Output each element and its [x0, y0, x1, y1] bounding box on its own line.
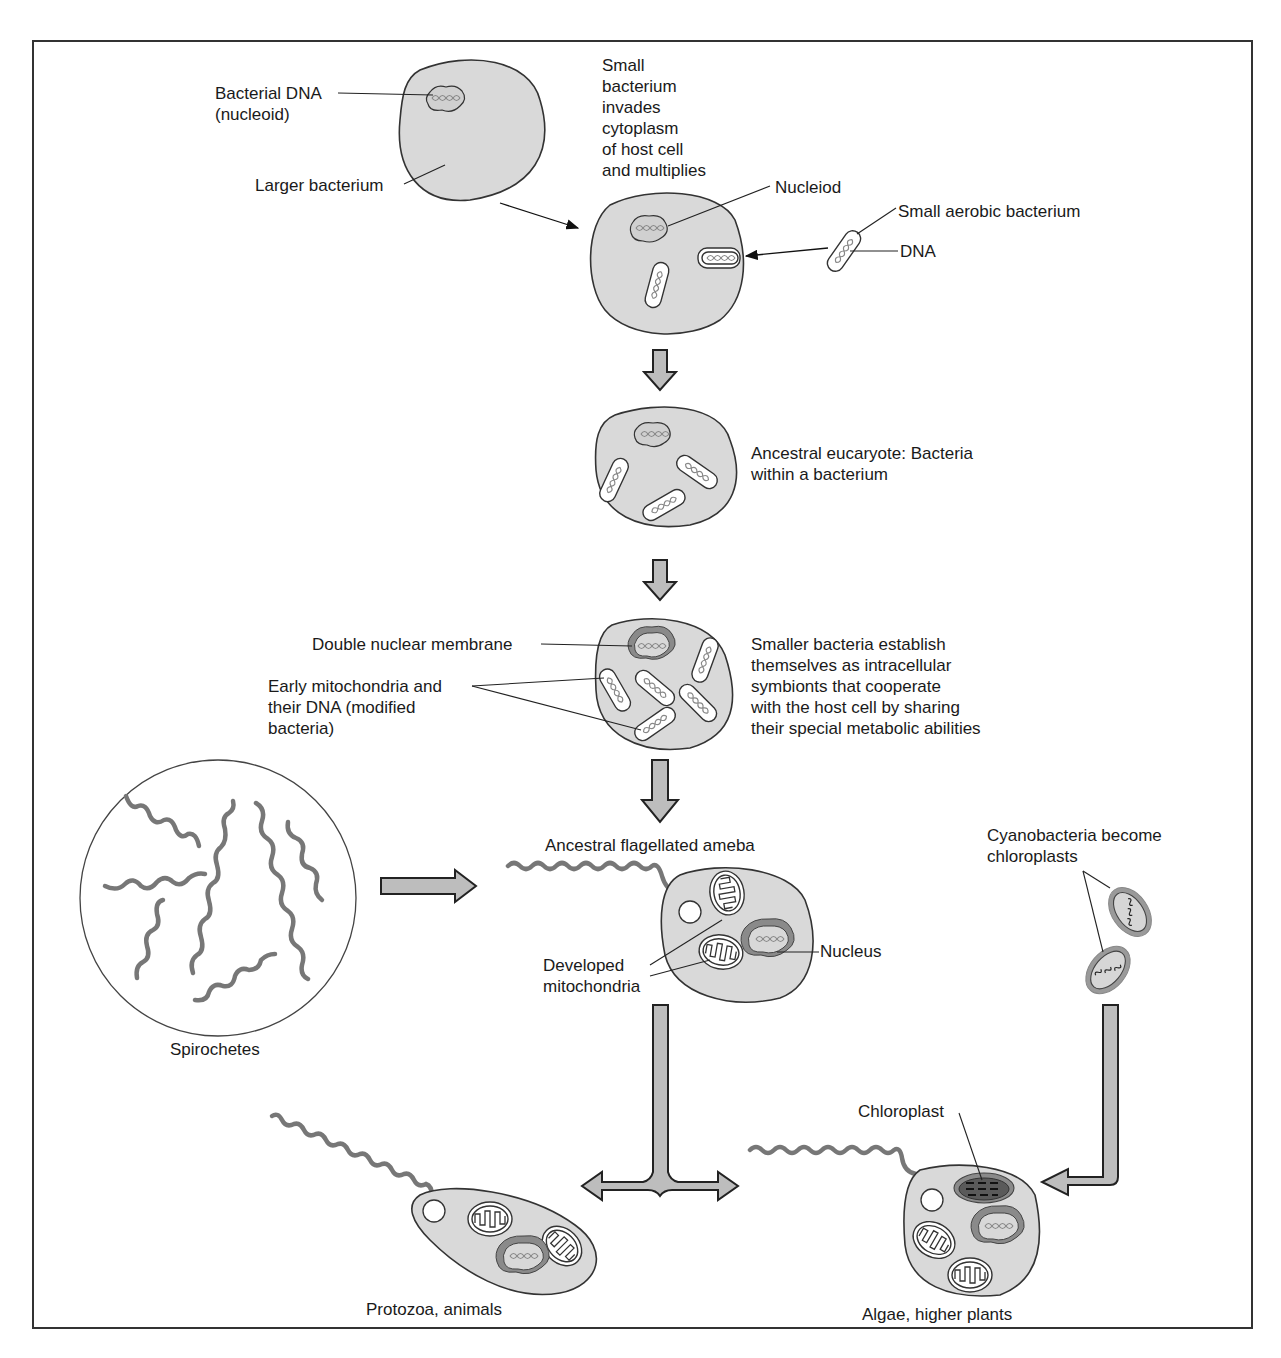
label-algae: Algae, higher plants: [862, 1304, 1012, 1325]
label-ancestral-ameba: Ancestral flagellated ameba: [545, 835, 755, 856]
protozoa-cell: [272, 1115, 596, 1295]
ancestral-eucaryote-cell: [596, 407, 737, 526]
chloroplast: [954, 1173, 1014, 1203]
down-arrow-2: [644, 560, 676, 600]
label-nucleus: Nucleus: [820, 941, 881, 962]
right-arrow-spirochetes: [381, 870, 476, 902]
label-small-aerobic-bacterium: Small aerobic bacterium: [898, 201, 1080, 222]
label-dna: DNA: [900, 241, 936, 262]
down-arrow-3: [642, 760, 678, 822]
l-arrow-chloroplast: [1042, 1005, 1118, 1195]
label-bacterial-dna: Bacterial DNA (nucleoid): [215, 83, 322, 125]
label-protozoa: Protozoa, animals: [366, 1299, 502, 1320]
label-nucleiod: Nucleiod: [775, 177, 841, 198]
label-spirochetes: Spirochetes: [170, 1039, 260, 1060]
diagram-artwork: [0, 0, 1281, 1358]
label-early-mitochondria: Early mitochondria and their DNA (modifi…: [268, 676, 442, 739]
label-larger-bacterium: Larger bacterium: [255, 175, 384, 196]
label-cyanobacteria: Cyanobacteria become chloroplasts: [987, 825, 1162, 867]
host-cell-invasion: [591, 193, 744, 334]
label-double-nuclear-membrane: Double nuclear membrane: [312, 634, 512, 655]
label-small-bacterium-invades: Small bacterium invades cytoplasm of hos…: [602, 55, 706, 181]
spirochetes-circle: [80, 760, 356, 1036]
larger-bacterium-cell: [399, 60, 544, 200]
algae-cell: [750, 1147, 1039, 1296]
label-ancestral-eucaryote: Ancestral eucaryote: Bacteria within a b…: [751, 443, 973, 485]
label-developed-mitochondria: Developed mitochondria: [543, 955, 640, 997]
label-smaller-bacteria: Smaller bacteria establish themselves as…: [751, 634, 981, 739]
symbiont-cell: [596, 619, 733, 750]
split-arrow: [582, 1005, 738, 1200]
label-chloroplast: Chloroplast: [858, 1101, 944, 1122]
down-arrow-1: [644, 350, 676, 390]
